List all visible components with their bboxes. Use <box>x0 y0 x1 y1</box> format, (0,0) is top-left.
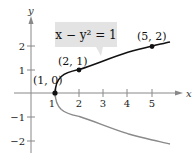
point-label-2-1: (2, 1) <box>58 55 88 68</box>
svg-text:2: 2 <box>19 41 25 52</box>
svg-text:1: 1 <box>19 65 25 76</box>
svg-text:−2: −2 <box>10 136 25 147</box>
callout-pointer <box>96 47 103 56</box>
svg-text:−1: −1 <box>10 112 25 123</box>
point-5-2 <box>150 44 155 49</box>
chart: x − y² = 1 x y 1 2 3 4 5 2 1 −1 −2 <box>0 0 195 161</box>
y-axis-arrow-icon <box>29 16 34 24</box>
point-label-1-0: (1, 0) <box>33 74 63 87</box>
svg-text:5: 5 <box>149 98 155 109</box>
svg-text:4: 4 <box>124 98 130 109</box>
x-axis-arrow-icon <box>175 91 183 96</box>
svg-text:3: 3 <box>100 98 106 109</box>
svg-text:2: 2 <box>76 98 82 109</box>
y-axis-label: y <box>27 5 34 16</box>
x-tick-labels: 1 2 3 4 5 <box>49 98 155 109</box>
svg-text:1: 1 <box>49 98 55 109</box>
x-axis-label: x <box>186 88 192 99</box>
point-2-1 <box>77 68 82 73</box>
point-label-5-2: (5, 2) <box>137 30 167 43</box>
equation-callout: x − y² = 1 <box>55 22 117 56</box>
point-1-0 <box>52 90 57 95</box>
equation-label: x − y² = 1 <box>55 28 116 42</box>
